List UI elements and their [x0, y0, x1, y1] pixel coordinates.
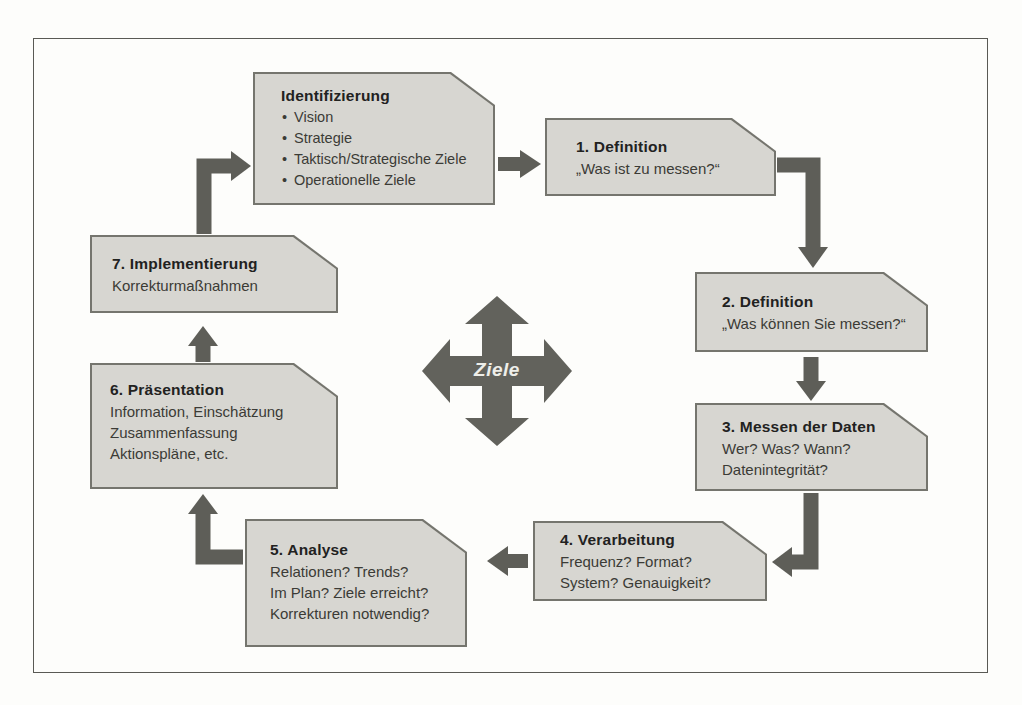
card-title: Identifizierung — [281, 85, 487, 107]
card-line: System? Genauigkeit? — [560, 572, 765, 593]
card-line: Relationen? Trends? — [270, 561, 461, 582]
card-title: 3. Messen der Daten — [722, 416, 920, 438]
diagram-canvas: Ziele Identifizierung Vision Strategie T… — [0, 0, 1022, 705]
card-analyse: 5. Analyse Relationen? Trends? Im Plan? … — [245, 519, 467, 647]
card-line: Korrekturen notwendig? — [270, 603, 461, 624]
card-praesentation: 6. Präsentation Information, Einschätzun… — [90, 363, 338, 489]
card-title: 4. Verarbeitung — [560, 529, 765, 551]
card-title: 7. Implementierung — [112, 253, 336, 275]
card-line: Wer? Was? Wann? — [722, 438, 920, 459]
card-line: Korrekturmaßnahmen — [112, 275, 336, 296]
card-verarbeitung: 4. Verarbeitung Frequenz? Format? System… — [533, 521, 767, 601]
card-identifizierung: Identifizierung Vision Strategie Taktisc… — [253, 72, 495, 205]
card-line: „Was ist zu messen?“ — [576, 158, 774, 179]
card-line: Zusammenfassung — [110, 422, 332, 443]
card-title: 6. Präsentation — [110, 379, 332, 401]
ziele-label: Ziele — [457, 359, 537, 381]
card-line: Im Plan? Ziele erreicht? — [270, 582, 461, 603]
card-definition-2: 2. Definition „Was können Sie messen?“ — [695, 272, 928, 352]
card-bullet: Strategie — [281, 128, 487, 149]
card-messen-der-daten: 3. Messen der Daten Wer? Was? Wann? Date… — [695, 403, 928, 491]
card-line: Aktionspläne, etc. — [110, 443, 332, 464]
card-line: Frequenz? Format? — [560, 551, 765, 572]
card-title: 1. Definition — [576, 136, 774, 158]
card-bullet: Operationelle Ziele — [281, 170, 487, 191]
card-title: 5. Analyse — [270, 539, 461, 561]
card-bullet: Taktisch/Strategische Ziele — [281, 149, 487, 170]
card-implementierung: 7. Implementierung Korrekturmaßnahmen — [90, 235, 338, 313]
card-definition-1: 1. Definition „Was ist zu messen?“ — [545, 118, 776, 196]
card-title: 2. Definition — [722, 291, 926, 313]
card-line: Datenintegrität? — [722, 459, 920, 480]
card-bullet: Vision — [281, 107, 487, 128]
diagram-frame — [33, 38, 988, 673]
card-line: Information, Einschätzung — [110, 401, 332, 422]
card-line: „Was können Sie messen?“ — [722, 313, 926, 334]
